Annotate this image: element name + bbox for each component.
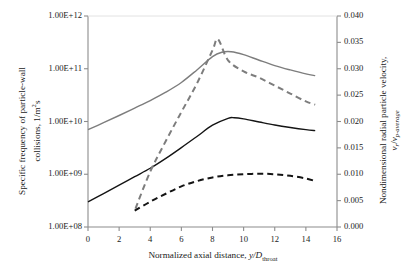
chart-figure: Specific frequency of particle-wall coll… xyxy=(0,0,417,273)
x-axis-tick-label: 8 xyxy=(201,234,225,244)
x-axis-tick-label: 12 xyxy=(263,234,287,244)
y2-axis-tick-label: 0.005 xyxy=(344,195,384,205)
series-black-solid-collision-frequency xyxy=(88,117,315,201)
x-axis-tick-label: 6 xyxy=(169,234,193,244)
y2-axis-tick-label: 0.035 xyxy=(344,36,384,46)
x-axis-tick-label: 2 xyxy=(107,234,131,244)
y-axis-tick-label: 1.00E+11 xyxy=(30,63,82,73)
series-gray-solid-collision-frequency xyxy=(88,52,315,130)
y2-axis-tick-label: 0.020 xyxy=(344,116,384,126)
y-axis-tick-label: 1.00E+12 xyxy=(30,10,82,20)
series-black-dashed-radial-velocity xyxy=(135,174,316,211)
y2-axis-tick-label: 0.010 xyxy=(344,168,384,178)
y2-axis-tick-label: 0.015 xyxy=(344,142,384,152)
x-axis-tick-label: 10 xyxy=(232,234,256,244)
y2-axis-tick-label: 0.040 xyxy=(344,10,384,20)
y2-axis-tick-label: 0.030 xyxy=(344,63,384,73)
y-axis-tick-label: 1.00E+09 xyxy=(30,168,82,178)
y-axis-tick-label: 1.00E+10 xyxy=(30,116,82,126)
y2-axis-tick-label: 0.025 xyxy=(344,89,384,99)
y-axis-tick-label: 1.00E+08 xyxy=(30,221,82,231)
series-gray-dashed-radial-velocity xyxy=(135,39,315,209)
x-axis-tick-label: 16 xyxy=(325,234,349,244)
x-axis-tick-label: 4 xyxy=(138,234,162,244)
x-axis-tick-label: 0 xyxy=(76,234,100,244)
x-axis-tick-label: 14 xyxy=(294,234,318,244)
y2-axis-tick-label: 0.000 xyxy=(344,221,384,231)
